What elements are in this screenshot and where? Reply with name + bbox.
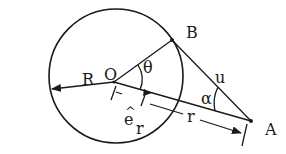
tick-er bbox=[141, 95, 145, 106]
r-dimension-line-left bbox=[150, 104, 183, 114]
label-alpha: α bbox=[201, 89, 212, 108]
label-R: R bbox=[82, 70, 95, 89]
line-BA-u bbox=[172, 40, 251, 121]
label-A: A bbox=[264, 120, 277, 139]
label-theta: θ bbox=[143, 58, 153, 77]
tick-A bbox=[242, 124, 247, 146]
label-O: O bbox=[104, 65, 117, 84]
point-A bbox=[249, 119, 253, 123]
label-B: B bbox=[186, 23, 198, 42]
tick-O-foot bbox=[116, 92, 122, 94]
alpha-arc bbox=[214, 87, 218, 111]
label-u: u bbox=[215, 68, 225, 87]
tick-O bbox=[111, 86, 116, 100]
diagram-svg: R O θ B u α ^ e r r A bbox=[0, 0, 286, 154]
r-dimension-line-right bbox=[200, 120, 241, 133]
diagram-canvas: R O θ B u α ^ e r r A bbox=[0, 0, 286, 154]
label-r: r bbox=[187, 107, 195, 126]
theta-arc bbox=[138, 65, 142, 90]
label-e-r-sub: r bbox=[136, 119, 144, 138]
label-e-r-e: e bbox=[124, 110, 133, 129]
